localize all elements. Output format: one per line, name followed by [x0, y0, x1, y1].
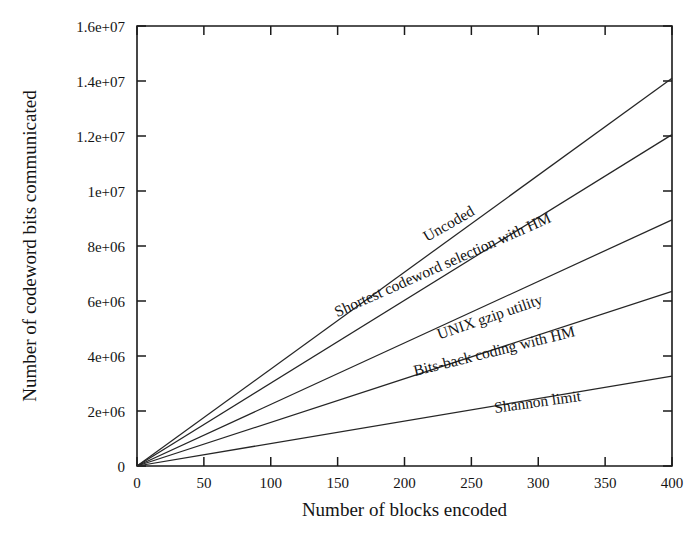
- y-tick-label: 1.2e+07: [76, 129, 125, 145]
- series-line-3: [137, 291, 672, 466]
- y-tick-label: 1.6e+07: [76, 19, 125, 35]
- x-tick-label: 50: [196, 475, 211, 491]
- y-tick-label: 1.4e+07: [76, 74, 125, 90]
- y-tick-label: 0: [118, 459, 126, 475]
- series-label-0: Uncoded: [420, 202, 477, 245]
- y-tick-label: 8e+06: [87, 239, 125, 255]
- series-line-2: [137, 220, 672, 466]
- x-tick-label: 300: [527, 475, 550, 491]
- chart-figure: 02e+064e+066e+068e+061e+071.2e+071.4e+07…: [0, 0, 700, 536]
- line-chart: 02e+064e+066e+068e+061e+071.2e+071.4e+07…: [0, 0, 700, 536]
- x-tick-label: 100: [260, 475, 283, 491]
- plot-frame: [137, 26, 672, 466]
- series-line-4: [137, 376, 672, 466]
- x-axis-title: Number of blocks encoded: [302, 499, 508, 520]
- x-tick-label: 250: [460, 475, 483, 491]
- x-tick-label: 0: [133, 475, 141, 491]
- x-tick-label: 150: [326, 475, 349, 491]
- y-axis-title: Number of codeword bits communicated: [19, 90, 40, 402]
- x-tick-label: 350: [594, 475, 617, 491]
- y-tick-label: 6e+06: [87, 294, 125, 310]
- series-label-4: Shannon limit: [493, 387, 583, 416]
- y-tick-label: 1e+07: [87, 184, 125, 200]
- y-tick-label: 2e+06: [87, 404, 125, 420]
- x-tick-label: 200: [393, 475, 416, 491]
- y-tick-label: 4e+06: [87, 349, 125, 365]
- series-line-1: [137, 135, 672, 466]
- x-tick-label: 400: [661, 475, 684, 491]
